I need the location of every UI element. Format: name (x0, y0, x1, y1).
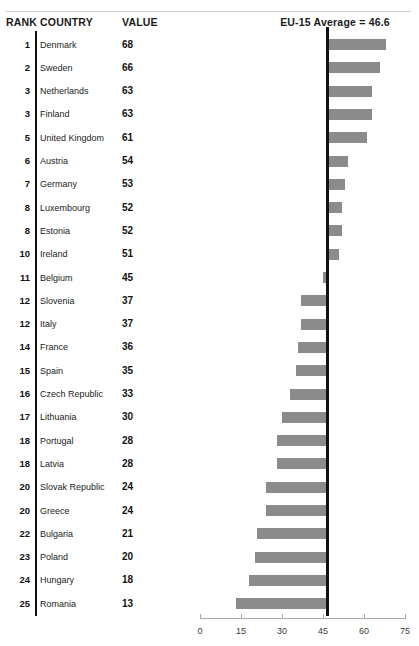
column-header-country: COUNTRY (40, 16, 93, 29)
row-value: 21 (122, 527, 133, 541)
row-rank: 12 (4, 317, 30, 331)
row-value: 30 (122, 410, 133, 424)
row-value: 63 (122, 84, 133, 98)
row-country: Estonia (40, 224, 70, 238)
row-country: Spain (40, 364, 63, 378)
table-row: 2Sweden66 (0, 61, 419, 75)
row-value: 13 (122, 597, 133, 611)
row-rank: 3 (4, 107, 30, 121)
row-rank: 20 (4, 504, 30, 518)
header-rule (6, 11, 411, 12)
table-row: 23Poland20 (0, 550, 419, 564)
row-country: Netherlands (40, 84, 89, 98)
table-row: 12Slovenia37 (0, 294, 419, 308)
row-rank: 25 (4, 597, 30, 611)
row-country: Denmark (40, 38, 77, 52)
table-row: 11Belgium45 (0, 271, 419, 285)
row-value: 54 (122, 154, 133, 168)
table-row: 16Czech Republic33 (0, 387, 419, 401)
table-row: 7Germany53 (0, 177, 419, 191)
row-rank: 5 (4, 131, 30, 145)
row-value: 37 (122, 317, 133, 331)
row-rank: 10 (4, 247, 30, 261)
row-value: 24 (122, 504, 133, 518)
row-value: 51 (122, 247, 133, 261)
row-country: Greece (40, 504, 70, 518)
row-rank: 15 (4, 364, 30, 378)
row-value: 66 (122, 61, 133, 75)
table-row: 20Slovak Republic24 (0, 480, 419, 494)
row-value: 52 (122, 224, 133, 238)
row-rank: 20 (4, 480, 30, 494)
row-rank: 16 (4, 387, 30, 401)
row-country: Poland (40, 550, 68, 564)
x-axis-tick (282, 614, 283, 618)
x-axis-tick-label: 30 (267, 626, 297, 636)
row-rank: 8 (4, 201, 30, 215)
row-country: Slovak Republic (40, 480, 105, 494)
row-value: 45 (122, 271, 133, 285)
row-value: 20 (122, 550, 133, 564)
row-rank: 22 (4, 527, 30, 541)
row-country: Ireland (40, 247, 68, 261)
row-value: 53 (122, 177, 133, 191)
table-row: 10Ireland51 (0, 247, 419, 261)
row-value: 28 (122, 434, 133, 448)
row-country: Sweden (40, 61, 73, 75)
row-country: Hungary (40, 573, 74, 587)
row-country: Romania (40, 597, 76, 611)
table-row: 1Denmark68 (0, 38, 419, 52)
row-rank: 18 (4, 457, 30, 471)
x-axis-tick-label: 75 (390, 626, 419, 636)
x-axis-line (200, 618, 405, 619)
row-country: United Kingdom (40, 131, 104, 145)
table-row: 15Spain35 (0, 364, 419, 378)
row-rank: 3 (4, 84, 30, 98)
chart-page: RANK COUNTRY VALUE EU-15 Average = 46.6 … (0, 0, 419, 646)
x-axis-tick (241, 614, 242, 618)
row-rank: 12 (4, 294, 30, 308)
row-country: Portugal (40, 434, 74, 448)
table-row: 12Italy37 (0, 317, 419, 331)
table-row: 6Austria54 (0, 154, 419, 168)
table-row: 24Hungary18 (0, 573, 419, 587)
table-row: 18Latvia28 (0, 457, 419, 471)
row-country: Italy (40, 317, 57, 331)
x-axis-tick (323, 614, 324, 618)
row-rank: 18 (4, 434, 30, 448)
row-country: Slovenia (40, 294, 75, 308)
x-axis-tick-label: 60 (349, 626, 379, 636)
row-value: 18 (122, 573, 133, 587)
row-rank: 24 (4, 573, 30, 587)
table-row: 3Finland63 (0, 107, 419, 121)
row-value: 37 (122, 294, 133, 308)
row-country: Czech Republic (40, 387, 103, 401)
x-axis-tick-label: 0 (185, 626, 215, 636)
row-rank: 6 (4, 154, 30, 168)
row-country: Austria (40, 154, 68, 168)
row-country: Germany (40, 177, 77, 191)
row-value: 52 (122, 201, 133, 215)
table-row: 22Bulgaria21 (0, 527, 419, 541)
row-rank: 1 (4, 38, 30, 52)
column-header-rank: RANK (6, 16, 36, 29)
x-axis-tick (200, 614, 201, 619)
row-value: 28 (122, 457, 133, 471)
table-row: 8Luxembourg52 (0, 201, 419, 215)
row-rank: 14 (4, 340, 30, 354)
table-row: 3Netherlands63 (0, 84, 419, 98)
average-annotation-label: EU-15 Average = 46.6 (255, 16, 415, 29)
x-axis-tick-label: 45 (308, 626, 338, 636)
row-rank: 23 (4, 550, 30, 564)
table-row: 8Estonia52 (0, 224, 419, 238)
x-axis-tick (364, 614, 365, 618)
table-row: 25Romania13 (0, 597, 419, 611)
table-row: 5United Kingdom61 (0, 131, 419, 145)
row-rank: 8 (4, 224, 30, 238)
row-rank: 17 (4, 410, 30, 424)
x-axis-tick (405, 614, 406, 619)
row-value: 36 (122, 340, 133, 354)
row-country: Lithuania (40, 410, 77, 424)
row-value: 63 (122, 107, 133, 121)
row-rank: 2 (4, 61, 30, 75)
